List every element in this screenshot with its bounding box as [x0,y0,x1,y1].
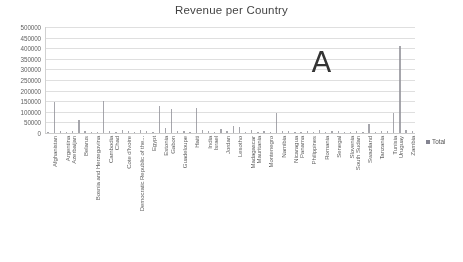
bar [72,131,73,133]
bar [97,132,98,133]
bar [368,124,369,133]
y-tick-label: 50000 [24,119,41,126]
bar [405,130,406,133]
bar [294,132,295,133]
bar [220,129,221,133]
bar [54,102,55,133]
legend-swatch-total [426,140,430,144]
bar [263,131,264,133]
bar [226,131,227,133]
bar [140,130,141,133]
bar [344,132,345,133]
bar [103,101,104,133]
bar [202,130,203,133]
bar-slot [409,27,415,133]
bar [208,131,209,133]
bar [375,132,376,133]
bar [245,132,246,133]
bar [300,132,301,133]
bar [152,132,153,133]
bar [356,131,357,133]
bar-series-total [45,27,415,133]
y-tick-label: 350000 [21,55,41,62]
bar [257,132,258,133]
x-slot: Zambia [409,136,415,256]
y-tick-label: 400000 [21,45,41,52]
bar [60,131,61,133]
bar [128,131,129,133]
gridline [45,133,415,134]
bar [196,108,197,133]
bar [214,132,215,133]
bar [307,131,308,133]
bar [109,131,110,133]
chart-title: Revenue per Country [0,4,463,16]
bar [282,131,283,133]
y-tick-label: 450000 [21,34,41,41]
bar [66,132,67,133]
y-tick-label: 0 [38,130,41,137]
bar [177,131,178,133]
x-tick-label: Zambia [409,136,416,156]
bar [313,132,314,133]
y-tick-label: 200000 [21,87,41,94]
chart-legend: Total [426,138,446,145]
bar [91,132,92,133]
bar [115,132,116,133]
bar [387,131,388,133]
bar [47,132,48,133]
y-axis-tick-labels: 5000004500004000003500003000002500002000… [0,27,43,133]
plot-area [45,27,415,133]
bar [233,126,234,133]
bar [362,132,363,133]
bar [165,128,166,133]
bar [189,132,190,133]
y-tick-label: 500000 [21,24,41,31]
bar [251,130,252,133]
bar [319,130,320,133]
bar [159,106,160,133]
y-tick-label: 150000 [21,98,41,105]
chart-container: Revenue per Country 50000045000040000035… [0,0,463,262]
bar [270,132,271,133]
y-tick-label: 300000 [21,66,41,73]
bar [331,131,332,133]
bar [350,132,351,133]
legend-label-total: Total [432,138,446,145]
bar [183,131,184,133]
bar [239,127,240,133]
bar [288,131,289,133]
bar [381,131,382,133]
bar [338,131,339,133]
bar [84,131,85,133]
x-axis-tick-labels: AfghanistanArgentinaAzerbaijanBelarusBos… [45,136,415,256]
annotation-letter-a: A [311,48,331,77]
bar [122,130,123,133]
bar [146,131,147,133]
y-tick-label: 250000 [21,77,41,84]
bar [171,109,172,133]
bar [78,120,79,133]
bar [134,132,135,133]
bar [412,131,413,133]
bar [325,132,326,133]
bar [393,113,394,133]
bar [276,113,277,133]
y-tick-label: 100000 [21,108,41,115]
bar [399,46,400,133]
